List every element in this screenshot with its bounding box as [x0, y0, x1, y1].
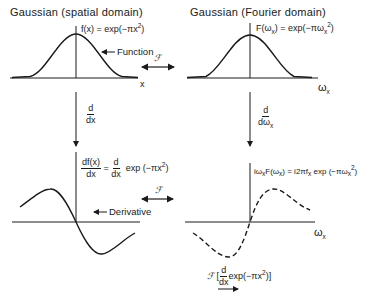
derivative-curve-dashed — [193, 189, 310, 257]
spatial-function-equation: f(x) = exp(−πx2) — [81, 23, 144, 34]
omega-axis-label-top: ωx — [318, 82, 330, 96]
function-label: Function — [117, 47, 153, 57]
diagram-canvas — [0, 0, 374, 301]
fourier-symbol-bottom: ℱ — [155, 186, 162, 195]
omega-axis-label-bottom: ωx — [314, 227, 326, 241]
d-domega-operator: ddωx — [258, 106, 273, 129]
spatial-domain-title: Gaussian (spatial domain) — [10, 7, 143, 18]
d-dx-operator: ddx — [86, 104, 96, 125]
fourier-function-equation: F(ωx) = exp(−πωx2) — [256, 22, 334, 35]
transform-expression: ℱ [ddxexp(−πx2)] — [207, 266, 271, 287]
fourier-symbol-top: ℱ — [154, 54, 161, 63]
fourier-derivative-equation: iωxF(ωx) = i2πfx exp (−πωx2) — [254, 165, 357, 178]
derivative-equation: df(x)dx = ddx exp (−πx2) — [81, 158, 168, 179]
x-axis-label: x — [140, 80, 145, 89]
derivative-label: Derivative — [109, 207, 151, 217]
fourier-domain-title: Gaussian (Fourier domain) — [190, 7, 326, 18]
